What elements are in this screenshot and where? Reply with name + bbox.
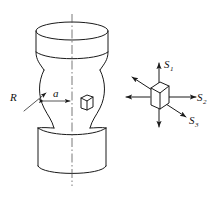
svg-text:3: 3 bbox=[194, 121, 199, 129]
svg-text:2: 2 bbox=[203, 98, 207, 106]
stress-arrow-upper-left bbox=[132, 77, 152, 90]
stress-radial-label: S 3 bbox=[189, 114, 199, 129]
stress-transverse-label: S 2 bbox=[197, 91, 207, 106]
surface-cube-element bbox=[81, 95, 93, 110]
specimen-group: R a bbox=[9, 14, 108, 186]
upper-cylinder-left-wall bbox=[36, 31, 44, 70]
engineering-diagram: R a S 1 S 2 bbox=[0, 0, 212, 197]
neck-left-contour bbox=[40, 70, 55, 128]
neck-half-width-label: a bbox=[53, 87, 59, 99]
radius-leader-arrow bbox=[24, 93, 46, 111]
stress-axial-label: S 1 bbox=[164, 58, 174, 73]
svg-text:1: 1 bbox=[170, 65, 174, 73]
stress-arrow-lower-right bbox=[166, 104, 186, 117]
stress-element-group: S 1 S 2 S 3 bbox=[126, 58, 207, 129]
upper-cylinder-right-wall bbox=[100, 31, 108, 70]
stress-cube bbox=[151, 82, 169, 109]
radius-label: R bbox=[9, 91, 17, 103]
